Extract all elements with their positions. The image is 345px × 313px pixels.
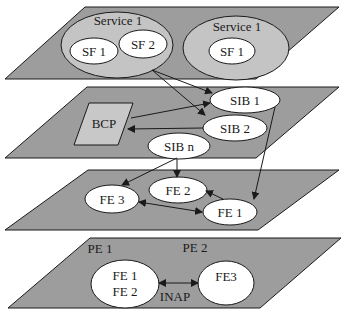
pe-2-fe-node: FE3 <box>198 261 254 305</box>
sf2-label: SF 2 <box>131 37 155 52</box>
sf1-right-label: SF 1 <box>220 44 244 59</box>
pe-1-label: PE 1 <box>88 241 113 256</box>
sib-n-node: SIB n <box>148 133 210 159</box>
pe-2-fe3-label: FE3 <box>215 269 237 284</box>
pe-1-fe-2-label: FE 2 <box>113 284 138 299</box>
service-left: Service 1 SF 1 SF 2 <box>61 12 173 78</box>
service-plane: Service 1 SF 1 SF 2 Service 1 SF 1 <box>5 7 339 80</box>
fe-2-label: FE 2 <box>166 183 191 198</box>
sib-2-node: SIB 2 <box>203 115 267 141</box>
inap-label: INAP <box>160 289 190 304</box>
sib-1-node: SIB 1 <box>210 87 280 113</box>
fe-3-node: FE 3 <box>85 185 139 213</box>
pe-2-label: PE 2 <box>183 240 208 255</box>
fe-1-label: FE 1 <box>218 205 243 220</box>
bcp-label: BCP <box>92 116 117 131</box>
sib-2-label: SIB 2 <box>220 121 250 136</box>
sib-n-label: SIB n <box>164 139 194 154</box>
fe-1-node: FE 1 <box>203 199 257 225</box>
distributed-functional-plane: FE 3 FE 2 FE 1 <box>5 170 339 230</box>
fe-3-label: FE 3 <box>100 192 125 207</box>
physical-plane: PE 1 PE 2 FE 1 FE 2 FE3 INAP <box>8 238 341 308</box>
pe-1-fe-node: FE 1 FE 2 <box>91 260 159 308</box>
service-feature-sf1-right: SF 1 <box>209 38 255 64</box>
pe-1-fe-1-label: FE 1 <box>113 268 138 283</box>
service-right-label: Service 1 <box>213 19 262 34</box>
fe-2-node: FE 2 <box>149 177 207 203</box>
service-feature-sf1: SF 1 <box>70 38 118 64</box>
sib-1-label: SIB 1 <box>230 93 260 108</box>
service-feature-sf2: SF 2 <box>119 30 167 58</box>
in-conceptual-model-diagram: Service 1 SF 1 SF 2 Service 1 SF 1 BCP <box>0 0 345 313</box>
global-functional-plane: BCP SIB 1 SIB 2 SIB n <box>5 87 339 159</box>
sf1-label: SF 1 <box>82 44 106 59</box>
service-left-label: Service 1 <box>94 13 143 28</box>
service-right: Service 1 SF 1 <box>183 16 289 80</box>
